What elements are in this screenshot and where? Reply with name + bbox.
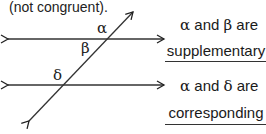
statement-2: α and δ are <box>180 77 258 95</box>
statement-1-second: β <box>224 16 233 34</box>
angle-delta-label: δ <box>53 66 62 84</box>
statement-1-first: α <box>180 16 190 34</box>
note-text: (not congruent). <box>9 0 108 15</box>
statement-2-connector: and <box>194 77 219 94</box>
statement-2-answer: corresponding <box>166 104 266 121</box>
angle-alpha-label: α <box>97 19 107 37</box>
statement-2-second: δ <box>224 77 233 95</box>
statement-2-first: α <box>180 77 190 95</box>
statement-1-answer: supplementary <box>166 42 266 59</box>
statement-1-connector: and <box>194 16 219 33</box>
statement-2-verb: are <box>237 77 259 94</box>
statement-1-answer-blank <box>165 61 266 62</box>
statement-1: α and β are <box>180 16 258 34</box>
angle-beta-label: β <box>81 39 90 57</box>
statement-2-answer-blank <box>165 124 266 125</box>
transversal-line <box>29 12 133 121</box>
statement-1-verb: are <box>236 16 258 33</box>
